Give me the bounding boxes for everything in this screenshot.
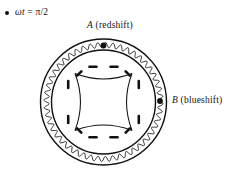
astroid-arc (75, 73, 80, 130)
outer-circle (41, 39, 167, 165)
astroid-arc (75, 73, 132, 78)
figure-canvas: ωt = π/2 A (redshift) B (blueshift) (0, 0, 242, 178)
point-a-dot (101, 43, 107, 49)
deformation-arrows-group (68, 67, 139, 138)
diagram-group (41, 39, 167, 165)
point-b-dot (157, 98, 163, 104)
ring-deformation-diagram (0, 0, 242, 178)
wavy-ring-path (44, 42, 163, 161)
astroid-arcs-group (75, 73, 132, 130)
astroid-arc (75, 125, 132, 130)
inner-circle (52, 50, 156, 154)
astroid-arc (127, 73, 132, 130)
